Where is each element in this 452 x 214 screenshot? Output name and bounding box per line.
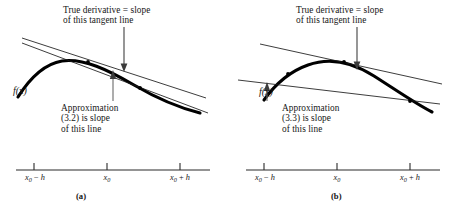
approximation-annotation-a: Approximation (3.2) is slope of this lin… <box>61 103 118 134</box>
point-marker-x0 <box>86 60 90 64</box>
tick-label-x0-plus-h: x0 + h <box>389 173 431 182</box>
approximation-annotation-line2: (3.2) is slope <box>61 113 118 123</box>
curve-label-fx: f(x) <box>13 85 27 96</box>
panel-b: True derivative = slope of this tangent … <box>226 0 452 214</box>
approximation-annotation-line3: of this line <box>61 124 118 134</box>
tick-label-x0-minus-h: x0 − h <box>14 173 56 182</box>
tick-label-x0-minus-h: x0 − h <box>244 173 286 182</box>
tick-label-x0-plus-h: x0 + h <box>159 173 201 182</box>
tangent-annotation-line1: True derivative = slope <box>296 5 383 15</box>
point-marker-x0-plus-h <box>138 86 142 90</box>
tangent-annotation-line2: of this tangent line <box>296 15 383 25</box>
tick-label-x0: x0 <box>92 173 122 182</box>
tangent-line <box>260 44 442 84</box>
approximation-annotation-b: Approximation (3.3) is slope of this lin… <box>282 103 339 134</box>
approximation-annotation-line1: Approximation <box>61 103 118 113</box>
panel-caption-b: (b) <box>331 191 342 201</box>
approximation-annotation-line1: Approximation <box>282 103 339 113</box>
panel-a: True derivative = slope of this tangent … <box>0 0 226 214</box>
curve-label-fx: f(x) <box>259 86 273 97</box>
tangent-line <box>22 38 206 98</box>
approximation-annotation-line2: (3.3) is slope <box>282 113 339 123</box>
tick-label-x0: x0 <box>322 173 352 182</box>
point-marker-x0 <box>342 60 346 64</box>
approximation-annotation-line3: of this line <box>282 124 339 134</box>
panel-caption-a: (a) <box>76 191 86 201</box>
tangent-annotation-a: True derivative = slope of this tangent … <box>63 5 150 26</box>
point-marker-x0-minus-h <box>286 72 290 76</box>
tangent-annotation-line2: of this tangent line <box>63 15 150 25</box>
point-marker-x0-plus-h <box>408 99 412 103</box>
numerical-differentiation-figure: True derivative = slope of this tangent … <box>0 0 452 214</box>
tangent-annotation-b: True derivative = slope of this tangent … <box>296 5 383 26</box>
tangent-annotation-line1: True derivative = slope <box>63 5 150 15</box>
